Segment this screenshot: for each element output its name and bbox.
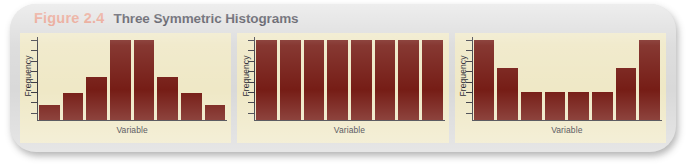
- histogram-bar: [374, 40, 397, 121]
- histogram-bar: [255, 40, 278, 121]
- histogram-bar: [421, 40, 444, 121]
- histogram-bar: [204, 105, 227, 120]
- figure-title: Three Symmetric Histograms: [114, 11, 299, 26]
- histogram-bar: [591, 92, 614, 120]
- histogram-panel-1: Frequency Variable: [20, 33, 231, 143]
- histogram-bar: [156, 77, 179, 120]
- histogram-bars-2: [255, 37, 443, 120]
- x-axis-label-3: Variable: [472, 125, 662, 135]
- x-axis-line-1: [37, 120, 227, 121]
- x-axis-label-2: Variable: [254, 125, 444, 135]
- histogram-bar: [109, 40, 132, 121]
- histogram-bar: [544, 92, 567, 120]
- figure-number: Figure 2.4: [34, 10, 105, 26]
- histogram-bar: [496, 68, 519, 120]
- histogram-bars-1: [38, 37, 226, 120]
- histogram-bar: [303, 40, 326, 121]
- histogram-bar: [350, 40, 373, 121]
- x-axis-line-3: [472, 120, 662, 121]
- histogram-bar: [397, 40, 420, 121]
- histogram-bar: [85, 77, 108, 120]
- histogram-bars-3: [473, 37, 661, 120]
- histogram-bar: [38, 105, 61, 120]
- x-axis-label-1: Variable: [37, 125, 227, 135]
- histogram-panel-3: Frequency Variable: [455, 33, 666, 143]
- histogram-bar: [615, 68, 638, 120]
- histogram-bar: [567, 92, 590, 120]
- histogram-bar: [473, 40, 496, 121]
- histogram-panels: Frequency Variable Frequency Variable: [20, 33, 666, 143]
- x-axis-line-2: [254, 120, 444, 121]
- histogram-bar: [133, 40, 156, 121]
- histogram-bar: [638, 40, 661, 121]
- histogram-bar: [62, 93, 85, 120]
- histogram-panel-2: Frequency Variable: [237, 33, 448, 143]
- histogram-bar: [520, 92, 543, 120]
- histogram-bar: [180, 93, 203, 120]
- histogram-bar: [279, 40, 302, 121]
- histogram-bar: [326, 40, 349, 121]
- figure-card: Figure 2.4 Three Symmetric Histograms Fr…: [10, 4, 676, 152]
- figure-caption-bar: Figure 2.4 Three Symmetric Histograms: [10, 4, 676, 32]
